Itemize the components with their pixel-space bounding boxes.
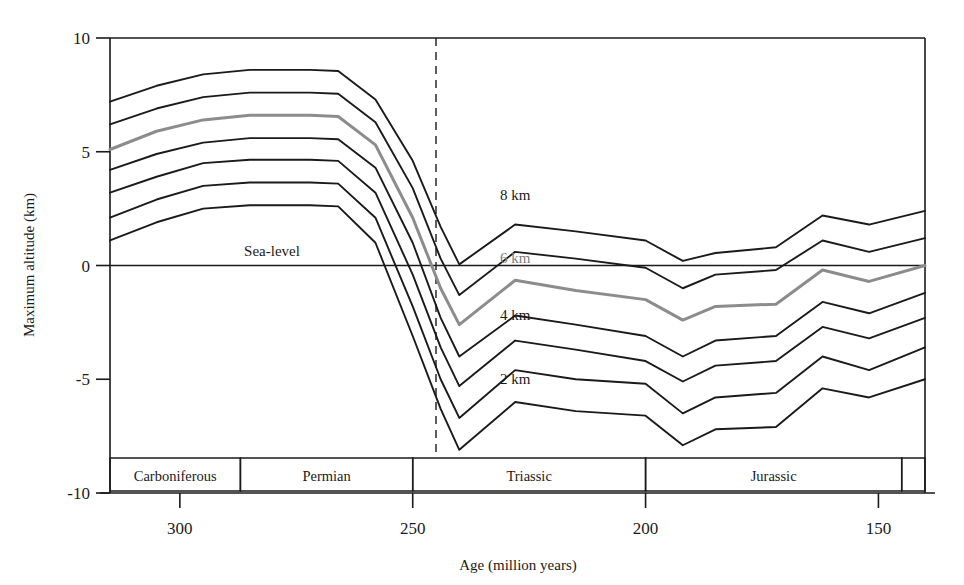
y-tick-label--10: -10	[67, 484, 90, 503]
y-tick-label-10: 10	[73, 29, 90, 48]
x-tick-label-200: 200	[633, 519, 659, 538]
curve-label-6-km: 6 km	[500, 250, 531, 266]
chart-figure: 1050-5-10 300250200150 CarboniferousPerm…	[0, 0, 964, 585]
curve-label-4-km: 4 km	[500, 307, 531, 323]
altitude-vs-age-chart: 1050-5-10 300250200150 CarboniferousPerm…	[0, 0, 964, 585]
curve-label-8-km: 8 km	[500, 187, 531, 203]
period-label-triassic: Triassic	[506, 468, 551, 484]
x-tick-label-150: 150	[866, 519, 892, 538]
x-tick-label-300: 300	[167, 519, 193, 538]
x-tick-label-250: 250	[400, 519, 426, 538]
curve-label-2-km: 2 km	[500, 371, 531, 387]
y-tick-label-0: 0	[82, 257, 91, 276]
chart-background	[0, 0, 964, 585]
period-label-permian: Permian	[302, 468, 351, 484]
period-label-carboniferous: Carboniferous	[134, 468, 217, 484]
period-label-jurassic: Jurassic	[751, 468, 797, 484]
y-tick-label--5: -5	[76, 370, 90, 389]
x-axis-title: Age (million years)	[459, 557, 576, 574]
sea-level-label: Sea-level	[244, 243, 300, 259]
y-axis-title: Maximum altitude (km)	[21, 193, 38, 337]
y-tick-label-5: 5	[82, 143, 91, 162]
